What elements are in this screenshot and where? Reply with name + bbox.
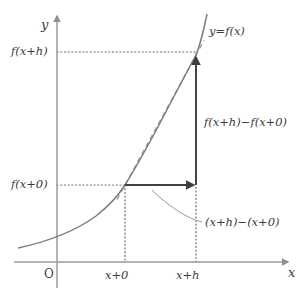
y-axis-label: y xyxy=(41,18,48,31)
run-annotation-label: (x+h)−(x+0) xyxy=(205,217,280,229)
run-label-leader-line xyxy=(152,190,202,222)
curve-equation-label: y=f(x) xyxy=(209,26,245,38)
x-axis-label: x xyxy=(288,266,295,279)
y-value-label-f-x-plus-0: f(x+0) xyxy=(11,179,48,191)
rise-annotation-label: f(x+h)−f(x+0) xyxy=(204,117,287,129)
derivative-secant-diagram: y x O f(x+h) f(x+0) x+0 x+h y=f(x) f(x+h… xyxy=(0,0,304,307)
origin-label: O xyxy=(44,268,54,280)
x-tick-label-x-plus-0: x+0 xyxy=(105,270,128,282)
y-value-label-f-x-plus-h: f(x+h) xyxy=(11,46,48,58)
x-tick-label-x-plus-h: x+h xyxy=(176,270,200,282)
